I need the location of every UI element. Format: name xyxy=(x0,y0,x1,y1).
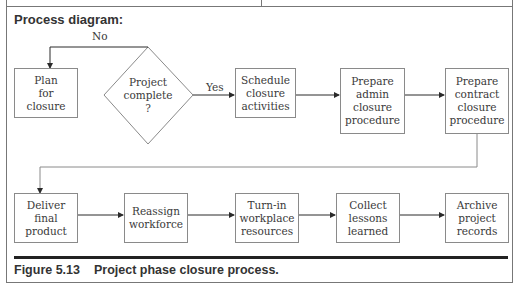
box-schedule-closure-activities: Schedule closure activities xyxy=(235,68,296,118)
box-prepare-contract-closure: Prepare contract closure procedure xyxy=(445,68,509,134)
figure-caption: Figure 5.13Project phase closure process… xyxy=(14,263,279,277)
yes-label: Yes xyxy=(206,81,224,93)
decision-label: Project complete ? xyxy=(118,76,178,115)
box-plan-for-closure: Plan for closure xyxy=(14,68,78,118)
box-prepare-admin-closure: Prepare admin closure procedure xyxy=(340,68,405,134)
box-collect-lessons: Collect lessons learned xyxy=(336,193,400,243)
connector-lines xyxy=(0,0,519,289)
box-turn-in-resources: Turn-in workplace resources xyxy=(235,193,299,243)
box-reassign-workforce: Reassign workforce xyxy=(124,193,188,243)
caption-rule xyxy=(14,256,508,259)
wrap-connector xyxy=(40,134,477,193)
no-label: No xyxy=(92,30,108,42)
figure-number: Figure 5.13 xyxy=(14,263,80,277)
figure-caption-text: Project phase closure process. xyxy=(94,263,279,277)
box-deliver-final-product: Deliver final product xyxy=(14,193,78,243)
box-archive-records: Archive project records xyxy=(445,193,509,243)
